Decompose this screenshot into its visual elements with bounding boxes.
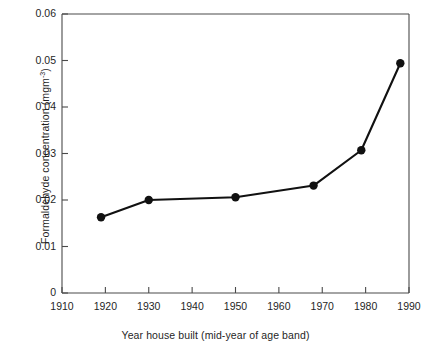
data-point-0-0 <box>97 213 105 221</box>
data-point-0-5 <box>396 59 404 67</box>
series-line-0 <box>101 63 400 217</box>
formaldehyde-line-chart: Formaldehyde concentration (mgm-3) Year … <box>0 0 431 350</box>
data-series-layer <box>97 59 405 221</box>
data-point-0-2 <box>231 193 239 201</box>
data-point-0-4 <box>357 146 365 154</box>
data-point-0-1 <box>145 196 153 204</box>
plot-area <box>0 0 431 350</box>
data-point-0-3 <box>309 181 317 189</box>
